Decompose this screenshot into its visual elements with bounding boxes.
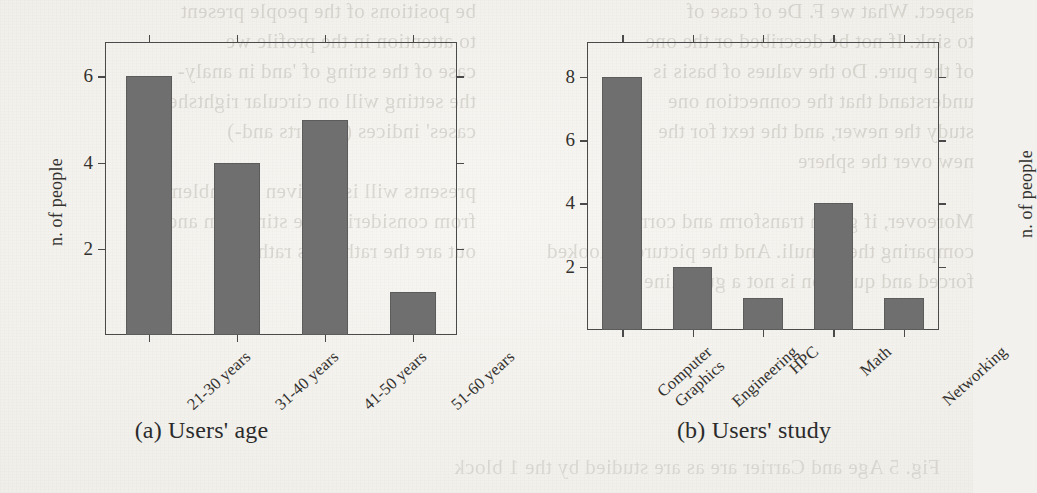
bar [814, 203, 853, 330]
y-tick-mark [939, 203, 946, 204]
plot-area-users-study: 2468 ComputerGraphicsEngineeringHPCMathN… [587, 42, 939, 330]
bar [743, 298, 782, 330]
plot-area-users-age: 246 21-30 years31-40 years41-50 years51-… [105, 42, 457, 335]
x-tick-mark [763, 35, 764, 42]
y-tick-label: 6 [84, 65, 94, 87]
subfigure-caption-a: (a) Users' age [0, 417, 445, 444]
x-tick-mark [237, 35, 238, 42]
bar [673, 267, 712, 330]
y-tick-mark [939, 77, 946, 78]
y-tick-label: 2 [84, 238, 94, 260]
y-tick-mark [580, 77, 587, 78]
bar [214, 163, 260, 335]
x-tick-mark [413, 35, 414, 42]
y-tick-label: 2 [566, 256, 576, 278]
x-tick-mark [325, 335, 326, 342]
y-tick-mark [457, 76, 464, 77]
x-tick-mark [693, 35, 694, 42]
y-tick-label: 4 [84, 152, 94, 174]
x-tick-mark [149, 335, 150, 342]
y-tick-mark [580, 203, 587, 204]
x-tick-mark [413, 335, 414, 342]
y-tick-mark [98, 249, 105, 250]
x-tick-label: 31-40 years [271, 347, 342, 414]
bar-group-b [587, 42, 939, 330]
x-tick-label: Networking [938, 342, 1010, 410]
y-axis-label-a: n. of people [46, 158, 67, 246]
subfigure-users-age: n. of people 246 21-30 years31-40 years4… [0, 0, 487, 493]
y-tick-mark [98, 163, 105, 164]
x-tick-label: ComputerGraphics [653, 342, 728, 415]
x-tick-mark [904, 330, 905, 337]
y-tick-mark [457, 163, 464, 164]
y-tick-mark [457, 249, 464, 250]
bar [884, 298, 923, 330]
x-tick-mark [622, 35, 623, 42]
x-tick-mark [237, 335, 238, 342]
x-tick-mark [904, 35, 905, 42]
subfigure-users-study: n. of people 2468 ComputerGraphicsEngine… [487, 0, 973, 493]
x-tick-mark [763, 330, 764, 337]
bar [126, 76, 172, 335]
x-tick-label: 21-30 years [183, 347, 254, 414]
y-tick-mark [580, 140, 587, 141]
x-tick-label: 41-50 years [359, 347, 430, 414]
y-tick-mark [98, 76, 105, 77]
y-tick-mark [580, 267, 587, 268]
x-tick-mark [622, 330, 623, 337]
x-tick-mark [833, 35, 834, 42]
x-tick-mark [149, 35, 150, 42]
bar [302, 120, 348, 335]
bar [602, 77, 641, 330]
y-tick-label: 6 [566, 129, 576, 151]
x-tick-label: Math [856, 342, 895, 380]
x-tick-label: Engineering [728, 342, 801, 411]
y-tick-mark [939, 267, 946, 268]
bar-group-a [105, 42, 457, 335]
y-tick-mark [939, 140, 946, 141]
x-tick-mark [693, 330, 694, 337]
x-tick-mark [325, 35, 326, 42]
y-tick-label: 8 [566, 66, 576, 88]
x-tick-mark [833, 330, 834, 337]
y-tick-label: 4 [566, 192, 576, 214]
subfigure-caption-b: (b) Users' study [511, 417, 997, 444]
bar [390, 292, 436, 335]
y-axis-label-b: n. of people [1016, 150, 1037, 238]
